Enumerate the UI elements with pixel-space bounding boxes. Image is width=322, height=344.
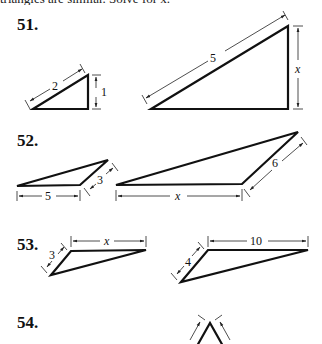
triangle-53-small: x 3: [41, 234, 146, 275]
label-51-small-leg: 1: [101, 85, 107, 99]
triangle-52-small: 5 3: [17, 160, 118, 203]
triangle-53-large: 10 4: [171, 234, 308, 282]
label-51-large-leg: x: [294, 62, 301, 76]
triangle-52-large: x 6: [116, 132, 307, 203]
label-52-large-side: 6: [272, 156, 278, 170]
triangle-51-small: 2 1: [25, 64, 107, 109]
label-53-large-side: 4: [185, 255, 191, 269]
label-51-small-hyp: 2: [52, 79, 58, 93]
label-52-small-base: 5: [45, 189, 51, 203]
triangle-51-large: 5 x: [142, 11, 303, 109]
figures: 2 1 5 x 5 3: [0, 0, 322, 344]
label-53-small-side: 3: [49, 248, 55, 262]
triangle-54: [190, 315, 230, 344]
label-52-large-base: x: [174, 189, 181, 203]
label-53-small-top: x: [103, 234, 110, 248]
label-51-large-hyp: 5: [210, 51, 216, 65]
label-53-large-top: 10: [250, 234, 262, 248]
label-52-small-side: 3: [97, 173, 103, 187]
